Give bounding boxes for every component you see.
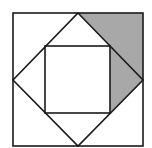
inner-square — [45, 46, 110, 113]
geometry-diagram — [0, 0, 152, 148]
